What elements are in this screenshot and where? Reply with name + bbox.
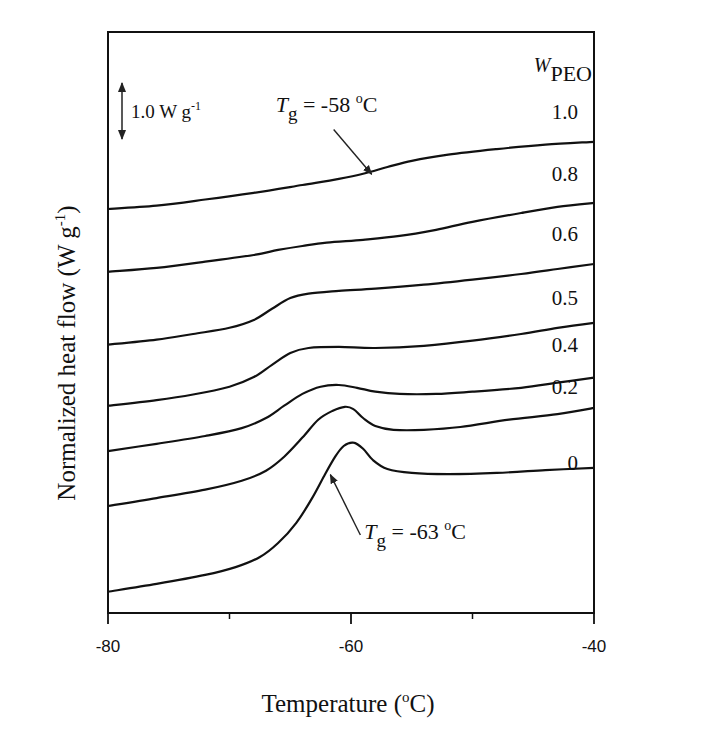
series-line-0-2: [108, 407, 594, 506]
dsc-chart: -80 -60 -40 Temperature (oC) Normalized …: [0, 0, 707, 736]
annotations: Tg = -58 oCTg = -63 oC: [276, 91, 466, 551]
tg-annotation-1.0: Tg = -58 oC: [276, 91, 378, 175]
series-label: 0.5: [552, 286, 578, 310]
scale-bar: 1.0 W g-1: [122, 83, 201, 139]
scale-bar-label: 1.0 W g-1: [131, 99, 201, 122]
series-label: 0.8: [552, 162, 578, 186]
series-line-0-4: [108, 378, 594, 451]
series-label: 0.6: [552, 222, 578, 246]
tg-label: Tg = -58 oC: [276, 91, 378, 124]
series-label: 0: [568, 451, 579, 475]
series-label: 1.0: [552, 100, 578, 124]
x-tick-label: -60: [339, 637, 364, 656]
series-group: [108, 142, 594, 592]
x-axis-label: Temperature (oC): [261, 689, 434, 718]
x-tick-label: -40: [582, 637, 607, 656]
legend-title: WPEO: [534, 54, 592, 86]
tg-arrow: [330, 475, 360, 535]
x-axis-ticks: [108, 613, 594, 624]
series-label: 0.2: [552, 375, 578, 399]
series-line-1-0: [108, 142, 594, 209]
y-axis-label: Normalized heat flow (W g-1): [52, 205, 81, 500]
series-label: 0.4: [552, 333, 579, 357]
tg-label: Tg = -63 oC: [364, 518, 466, 551]
series-line-0-6: [108, 264, 594, 345]
x-tick-label: -80: [96, 637, 121, 656]
series-labels: 1.00.80.60.50.40.20: [552, 100, 579, 475]
tg-annotation-0: Tg = -63 oC: [330, 475, 466, 551]
series-line-0-8: [108, 203, 594, 272]
x-axis-tick-labels: -80 -60 -40: [96, 637, 607, 656]
tg-arrow: [334, 130, 372, 175]
